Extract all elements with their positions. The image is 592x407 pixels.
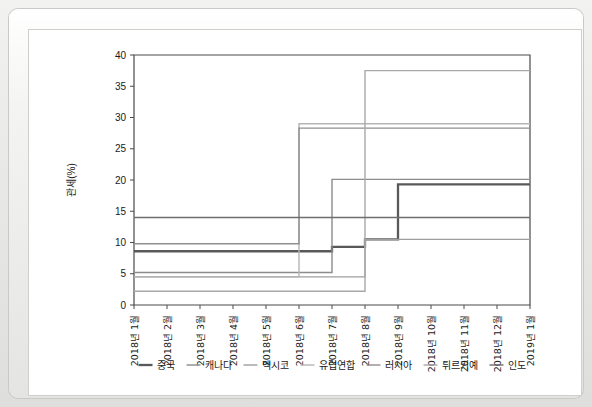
y-tick-label: 40	[115, 50, 127, 61]
y-tick-label: 10	[115, 237, 127, 248]
x-tick-label: 2018년 12월	[492, 315, 503, 372]
x-tick-label: 2018년 1월	[129, 315, 140, 366]
y-tick-label: 5	[120, 268, 126, 279]
x-tick-label: 2018년 7월	[327, 315, 338, 366]
y-tick-label: 15	[115, 206, 127, 217]
x-tick-label: 2018년 6월	[294, 315, 305, 366]
x-tick-label: 2018년 9월	[393, 315, 404, 366]
y-tick-label: 35	[115, 81, 127, 92]
y-axis-title: 관세(%)	[66, 163, 77, 197]
legend-label-4: 러시아	[385, 360, 412, 371]
y-tick-label: 20	[115, 175, 127, 186]
y-tick-label: 0	[120, 300, 126, 311]
legend-label-3: 유럽연합	[319, 360, 355, 371]
legend-label-6: 인도	[508, 360, 526, 371]
chart-plot-area: 0510152025303540관세(%)2018년 1월2018년 2월201…	[29, 30, 582, 396]
legend-label-2: 멕시코	[262, 360, 289, 371]
x-tick-label: 2018년 2월	[162, 315, 173, 366]
x-tick-label: 2018년 5월	[261, 315, 272, 366]
legend-label-5: 튀르키예	[442, 360, 478, 371]
x-tick-label: 2019년 1월	[525, 315, 536, 366]
screenshot-frame: 0510152025303540관세(%)2018년 1월2018년 2월201…	[0, 0, 592, 407]
x-tick-label: 2018년 3월	[195, 315, 206, 366]
legend-label-1: 캐나다	[205, 360, 232, 371]
x-tick-label: 2018년 8월	[360, 315, 371, 366]
x-tick-label: 2018년 4월	[228, 315, 239, 366]
legend-label-0: 중국	[157, 360, 175, 371]
window-bevel: 0510152025303540관세(%)2018년 1월2018년 2월201…	[9, 9, 583, 398]
x-tick-label: 2018년 10월	[426, 315, 437, 372]
y-tick-label: 30	[115, 112, 127, 123]
tariff-line-chart: 0510152025303540관세(%)2018년 1월2018년 2월201…	[29, 30, 582, 396]
chart-panel: 0510152025303540관세(%)2018년 1월2018년 2월201…	[28, 29, 582, 396]
y-tick-label: 25	[115, 143, 127, 154]
series-line-1	[134, 179, 530, 272]
